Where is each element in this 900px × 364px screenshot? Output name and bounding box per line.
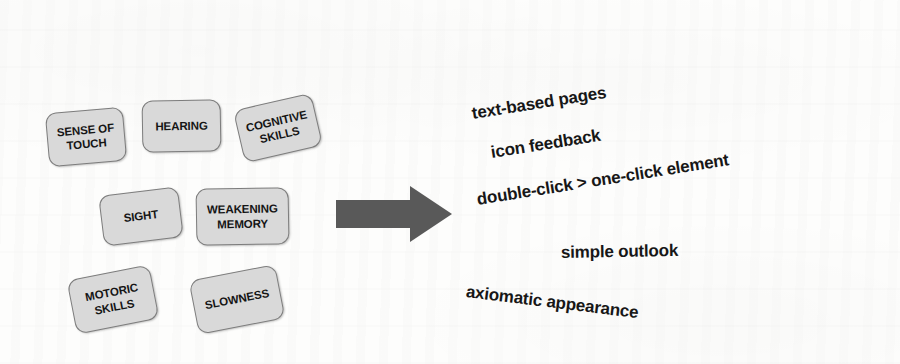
recommendation-axiomatic-appearance: axiomatic appearance (465, 282, 640, 323)
concept-box-label: WEAKENINGMEMORY (207, 202, 278, 231)
concept-box-sight: SIGHT (98, 186, 184, 246)
concept-box-label: COGNITIVESKILLS (244, 107, 311, 148)
concept-box-weakening-memory: WEAKENINGMEMORY (196, 187, 290, 246)
concept-box-cognitive-skills: COGNITIVESKILLS (233, 93, 323, 164)
concept-box-label: SENSE OFTOUCH (56, 121, 116, 154)
concept-box-label: HEARING (155, 119, 208, 134)
diagram-canvas: SENSE OFTOUCHHEARINGCOGNITIVESKILLSSIGHT… (0, 0, 900, 364)
recommendation-text-based-pages: text-based pages (470, 83, 607, 124)
concept-box-label-line: SLOWNESS (204, 286, 270, 312)
right-block-arrow-icon (336, 186, 452, 242)
concept-box-slowness: SLOWNESS (189, 264, 286, 335)
concept-box-sense-of-touch: SENSE OFTOUCH (45, 107, 127, 168)
concept-box-label: SLOWNESS (204, 286, 270, 312)
recommendation-simple-outlook: simple outlook (561, 241, 678, 263)
concept-box-label-line: WEAKENING (207, 202, 278, 217)
concept-box-hearing: HEARING (142, 99, 222, 152)
concept-box-label: SIGHT (123, 207, 159, 225)
concept-box-label-line: SIGHT (123, 207, 159, 225)
concept-box-label-line: MEMORY (207, 216, 278, 231)
concept-box-label-line: HEARING (155, 119, 208, 134)
concept-box-label: MOTORICSKILLS (84, 281, 142, 319)
concept-box-motoric-skills: MOTORICSKILLS (67, 264, 160, 334)
recommendation-icon-feedback: icon feedback (489, 126, 602, 163)
